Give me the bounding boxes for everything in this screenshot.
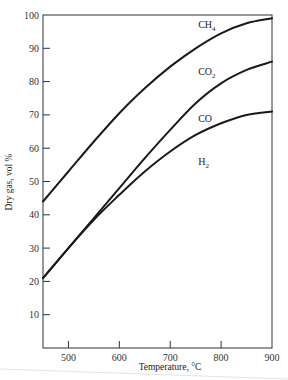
y-tick-label: 40 [29, 209, 39, 220]
y-axis-label: Dry gas, vol % [4, 153, 14, 210]
y-tick-label: 70 [29, 109, 39, 120]
series-line-ch4 [43, 18, 272, 201]
y-tick-label: 60 [29, 143, 39, 154]
series-line-co2 [43, 62, 272, 279]
region-label: H2 [198, 156, 209, 170]
y-tick-label: 80 [29, 76, 39, 87]
curves [43, 18, 272, 278]
x-tick-label: 600 [112, 352, 127, 363]
x-tick-label: 500 [61, 352, 76, 363]
region-label: CH4 [198, 19, 216, 33]
chart: 102030405060708090100 500600700800900 CH… [0, 0, 288, 380]
y-tick-label: 20 [29, 276, 39, 287]
x-tick-label: 800 [214, 352, 229, 363]
y-tick-label: 30 [29, 243, 39, 254]
region-label: CO2 [198, 66, 216, 80]
x-axis: 500600700800900 [61, 341, 280, 363]
y-tick-label: 100 [24, 10, 39, 21]
y-tick-label: 10 [29, 309, 39, 320]
region-label: CO [198, 113, 212, 124]
y-tick-label: 50 [29, 176, 39, 187]
y-tick-label: 90 [29, 43, 39, 54]
x-axis-label: Temperature, °C [139, 362, 202, 372]
plot-frame [43, 15, 272, 348]
x-tick-label: 900 [265, 352, 280, 363]
series-line-co [43, 112, 272, 279]
